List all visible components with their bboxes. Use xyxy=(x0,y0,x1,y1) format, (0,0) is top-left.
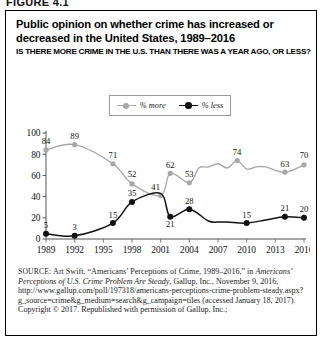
data-label: 28 xyxy=(185,196,194,206)
x-tick-label: 2007 xyxy=(209,245,228,255)
data-point xyxy=(72,233,78,239)
chart-plot-area: 0204060801001989199219951998200120042007… xyxy=(14,123,310,271)
data-label: 15 xyxy=(109,210,118,220)
x-tick-label: 1995 xyxy=(94,245,113,255)
y-tick-label: 60 xyxy=(31,171,41,181)
data-point xyxy=(168,171,173,176)
legend-label-more: % more xyxy=(140,101,166,110)
x-tick-label: 1989 xyxy=(37,245,56,255)
legend-item-less[interactable]: % less xyxy=(179,101,224,110)
data-label: 35 xyxy=(128,188,137,198)
x-tick-label: 2004 xyxy=(180,245,199,255)
data-label: 53 xyxy=(185,169,194,179)
data-label: 71 xyxy=(109,150,118,160)
data-label: 63 xyxy=(281,159,290,169)
data-label: 41 xyxy=(151,182,160,192)
legend-marker-more-icon xyxy=(117,102,136,110)
data-label: 21 xyxy=(166,219,175,229)
y-tick-label: 40 xyxy=(31,192,41,202)
series-less: 5315352128152120 xyxy=(43,188,308,238)
x-tick-label: 2001 xyxy=(151,245,170,255)
y-tick-label: 0 xyxy=(36,234,41,244)
data-point xyxy=(244,220,250,226)
legend-marker-less-icon xyxy=(179,102,198,110)
data-label: 62 xyxy=(166,160,175,170)
source-copyright: Copyright © 2017. Republished with permi… xyxy=(18,305,306,315)
figure-label: FIGURE 4.1 xyxy=(6,0,69,7)
data-label: 20 xyxy=(300,204,309,214)
y-tick-label: 100 xyxy=(26,128,40,138)
legend-item-more[interactable]: % more xyxy=(117,101,166,110)
y-tick-label: 80 xyxy=(31,150,41,160)
data-point xyxy=(235,158,240,163)
data-point xyxy=(129,181,134,186)
data-label: 74 xyxy=(233,147,242,157)
series-more: 84897152416253746370 xyxy=(42,131,309,198)
data-label: 3 xyxy=(73,222,77,232)
data-point xyxy=(110,220,116,226)
data-point xyxy=(187,180,192,185)
data-point xyxy=(301,215,307,221)
data-point xyxy=(72,142,77,147)
data-label: 84 xyxy=(42,136,51,146)
data-point xyxy=(43,147,48,152)
data-label: 15 xyxy=(242,210,251,220)
x-tick-label: 2010 xyxy=(237,245,256,255)
line-chart: 0204060801001989199219951998200120042007… xyxy=(14,123,310,271)
data-point xyxy=(301,162,306,167)
data-label: 5 xyxy=(44,220,48,230)
x-tick-label: 1992 xyxy=(65,245,84,255)
source-note: SOURCE: Art Swift, “Americans’ Perceptio… xyxy=(18,267,306,315)
data-point xyxy=(129,199,135,205)
source-prefix: SOURCE: xyxy=(18,267,51,276)
data-point xyxy=(282,214,288,220)
data-label: 70 xyxy=(300,150,309,160)
data-point xyxy=(282,170,287,175)
data-point xyxy=(186,206,192,212)
data-label: 89 xyxy=(70,131,79,141)
data-label: 52 xyxy=(128,169,137,179)
figure-frame: Public opinion on whether crime has incr… xyxy=(5,10,317,336)
legend-label-less: % less xyxy=(202,101,224,110)
source-line1: Art Swift, “Americans’ Perceptions of Cr… xyxy=(51,267,255,276)
figure-page: FIGURE 4.1 Public opinion on whether cri… xyxy=(0,0,324,339)
data-point xyxy=(110,161,115,166)
source-text: SOURCE: Art Swift, “Americans’ Perceptio… xyxy=(18,267,306,305)
chart-title: Public opinion on whether crime has incr… xyxy=(16,18,310,45)
data-point xyxy=(43,231,49,237)
chart-legend: % more % less xyxy=(109,95,231,116)
x-tick-label: 2016 xyxy=(295,245,310,255)
x-tick-label: 2013 xyxy=(266,245,285,255)
y-tick-label: 20 xyxy=(31,213,41,223)
data-label: 21 xyxy=(281,203,290,213)
x-tick-label: 1998 xyxy=(123,245,142,255)
chart-subtitle: IS THERE MORE CRIME IN THE U.S. THAN THE… xyxy=(16,47,312,57)
